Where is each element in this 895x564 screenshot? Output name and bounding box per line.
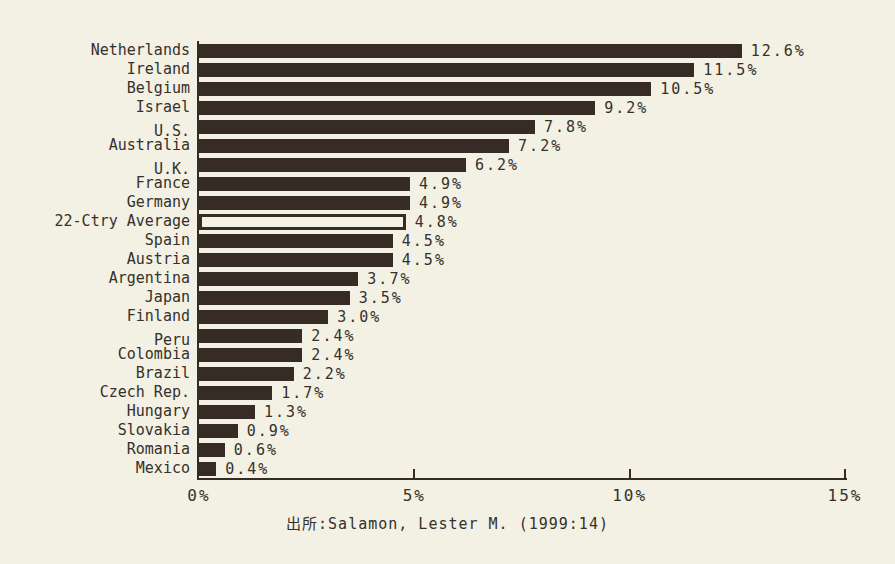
value-label: 1.3% <box>264 403 308 421</box>
bar <box>199 253 393 267</box>
chart-row: 22-Ctry Average4.8% <box>0 212 860 231</box>
chart-row: Finland3.0% <box>0 307 860 326</box>
category-label: Slovakia <box>0 421 190 440</box>
chart-row: Ireland11.5% <box>0 60 860 79</box>
chart-row: Belgium10.5% <box>0 79 860 98</box>
value-label: 9.2% <box>604 99 648 117</box>
value-label: 11.5% <box>703 61 758 79</box>
bar-track: 7.8% <box>199 117 845 136</box>
bar-track: 7.2% <box>199 136 845 155</box>
value-label: 10.5% <box>660 80 715 98</box>
bar <box>199 196 410 210</box>
x-tick-label-5: 5% <box>403 486 426 505</box>
category-label: U.K. <box>0 160 190 179</box>
average-bar <box>199 214 406 230</box>
x-tick-label-15: 15% <box>828 486 863 505</box>
x-tick-5 <box>413 469 415 478</box>
category-label: Brazil <box>0 364 190 383</box>
value-label: 2.4% <box>311 327 355 345</box>
bar <box>199 44 742 58</box>
value-label: 2.4% <box>311 346 355 364</box>
value-label: 4.8% <box>415 213 459 231</box>
x-tick-10 <box>629 469 631 478</box>
bar <box>199 291 350 305</box>
value-label: 2.2% <box>303 365 347 383</box>
category-label: Belgium <box>0 79 190 98</box>
category-label: U.S. <box>0 122 190 141</box>
chart-row: Brazil2.2% <box>0 364 860 383</box>
category-label: Romania <box>0 440 190 459</box>
value-label: 4.9% <box>419 175 463 193</box>
bar <box>199 177 410 191</box>
bar-track: 2.4% <box>199 345 845 364</box>
bar <box>199 329 302 343</box>
value-label: 7.2% <box>518 137 562 155</box>
x-tick-15 <box>844 469 846 478</box>
category-label: Germany <box>0 193 190 212</box>
bar-chart: Netherlands12.6%Ireland11.5%Belgium10.5%… <box>0 0 895 564</box>
bar <box>199 139 509 153</box>
bar <box>199 424 238 438</box>
bar <box>199 405 255 419</box>
x-tick-label-10: 10% <box>612 486 647 505</box>
bar <box>199 386 272 400</box>
bar-track: 2.2% <box>199 364 845 383</box>
bar-track: 12.6% <box>199 41 845 60</box>
bar-track: 1.7% <box>199 383 845 402</box>
chart-row: Netherlands12.6% <box>0 41 860 60</box>
chart-row: Argentina3.7% <box>0 269 860 288</box>
bar-track: 4.5% <box>199 250 845 269</box>
bar <box>199 310 328 324</box>
chart-row: Slovakia0.9% <box>0 421 860 440</box>
category-label: Hungary <box>0 402 190 421</box>
source-caption: 出所:Salamon, Lester M. (1999:14) <box>0 512 895 533</box>
value-label: 3.0% <box>337 308 381 326</box>
x-axis-line <box>197 478 847 480</box>
bar <box>199 234 393 248</box>
category-label: Czech Rep. <box>0 383 190 402</box>
category-label: Argentina <box>0 269 190 288</box>
value-label: 3.5% <box>359 289 403 307</box>
chart-row: Germany4.9% <box>0 193 860 212</box>
bar-track: 9.2% <box>199 98 845 117</box>
category-label: Spain <box>0 231 190 250</box>
chart-row: Czech Rep.1.7% <box>0 383 860 402</box>
category-label: Japan <box>0 288 190 307</box>
bar-track: 0.9% <box>199 421 845 440</box>
category-label: Peru <box>0 331 190 350</box>
bar <box>199 63 694 77</box>
bar <box>199 348 302 362</box>
chart-row: Romania0.6% <box>0 440 860 459</box>
bar-track: 3.5% <box>199 288 845 307</box>
bar-track: 3.0% <box>199 307 845 326</box>
value-label: 0.9% <box>247 422 291 440</box>
value-label: 4.5% <box>402 251 446 269</box>
x-axis-ticks <box>199 469 845 478</box>
bar-track: 3.7% <box>199 269 845 288</box>
bar-track: 4.9% <box>199 193 845 212</box>
bar <box>199 120 535 134</box>
bar-track: 10.5% <box>199 79 845 98</box>
bar <box>199 101 595 115</box>
bar <box>199 443 225 457</box>
bar <box>199 82 651 96</box>
bar-track: 6.2% <box>199 155 845 174</box>
bar <box>199 367 294 381</box>
category-label: 22-Ctry Average <box>0 212 190 231</box>
category-label: Mexico <box>0 459 190 478</box>
chart-row: Austria4.5% <box>0 250 860 269</box>
y-axis-line <box>197 41 199 480</box>
value-label: 12.6% <box>751 42 806 60</box>
category-label: Austria <box>0 250 190 269</box>
chart-row: U.S.7.8% <box>0 117 860 136</box>
category-label: Netherlands <box>0 41 190 60</box>
chart-row: Israel9.2% <box>0 98 860 117</box>
value-label: 7.8% <box>544 118 588 136</box>
value-label: 4.9% <box>419 194 463 212</box>
chart-row: Spain4.5% <box>0 231 860 250</box>
bar-track: 4.8% <box>199 212 845 231</box>
category-label: Finland <box>0 307 190 326</box>
value-label: 1.7% <box>281 384 325 402</box>
x-axis-tick-labels: 0% 5% 10% 15% <box>199 486 845 506</box>
bar-track: 4.5% <box>199 231 845 250</box>
